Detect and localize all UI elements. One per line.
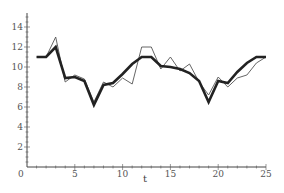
- y-tick-label: 8: [17, 82, 23, 92]
- series-thin-line: [37, 37, 266, 102]
- y-tick-label: 10: [12, 62, 24, 72]
- y-tick-label: 14: [12, 22, 24, 32]
- x-axis-title: t: [143, 173, 147, 184]
- x-tick-label: 5: [72, 169, 78, 179]
- x-tick-label: 10: [117, 169, 129, 179]
- y-tick-label: 6: [17, 102, 23, 112]
- y-axis: 2468101214: [12, 13, 30, 167]
- y-tick-label: 12: [12, 42, 23, 52]
- x-tick-label: 20: [212, 169, 224, 179]
- x-axis: 510152025: [27, 164, 272, 179]
- y-tick-label: 4: [17, 122, 23, 132]
- x-tick-label: 15: [165, 169, 177, 179]
- origin-label: 0: [18, 169, 24, 179]
- line-chart: 2468101214 510152025 0 t: [0, 0, 284, 193]
- series-thick-line: [37, 47, 266, 105]
- y-tick-label: 2: [17, 142, 23, 152]
- series-layer: [37, 37, 266, 105]
- x-tick-label: 25: [260, 169, 272, 179]
